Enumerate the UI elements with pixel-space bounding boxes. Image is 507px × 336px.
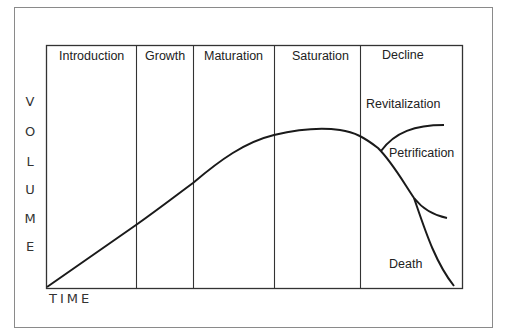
branch-label-revitalization: Revitalization bbox=[366, 97, 440, 111]
main-curve bbox=[47, 129, 447, 287]
x-axis-label: TIME bbox=[49, 291, 92, 306]
y-axis-letter-o: O bbox=[24, 124, 36, 139]
stage-label-introduction: Introduction bbox=[59, 49, 124, 63]
stage-label-maturation: Maturation bbox=[204, 49, 263, 63]
death-branch bbox=[414, 198, 454, 286]
branch-label-death: Death bbox=[389, 257, 422, 271]
y-axis-letter-l: L bbox=[24, 154, 36, 169]
y-axis-letter-m: M bbox=[24, 211, 36, 226]
y-axis-letter-u: U bbox=[24, 182, 36, 197]
chart-frame bbox=[47, 46, 463, 289]
branch-label-petrification: Petrification bbox=[389, 146, 454, 160]
stage-label-growth: Growth bbox=[145, 49, 185, 63]
stage-label-saturation: Saturation bbox=[292, 49, 349, 63]
stage-label-decline: Decline bbox=[382, 48, 424, 62]
y-axis-letter-e: E bbox=[24, 239, 36, 254]
y-axis-letter-v: V bbox=[24, 94, 36, 109]
